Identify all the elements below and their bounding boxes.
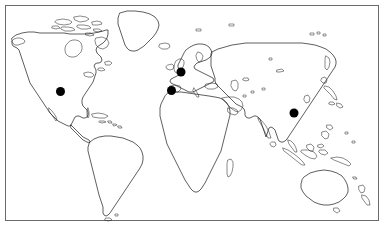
landmass-south-america xyxy=(88,136,143,221)
landmass-africa xyxy=(160,92,238,192)
landmass-japan xyxy=(321,77,343,108)
landmass-arabia xyxy=(222,97,243,112)
landmass-greenland xyxy=(118,11,159,51)
landmass-australia xyxy=(301,170,348,213)
landmass-iceland xyxy=(159,43,170,49)
small-islands xyxy=(115,24,355,216)
site-marker-southwest-europe[interactable] xyxy=(167,86,176,95)
landmass-north-america xyxy=(12,30,108,126)
site-markers-layer xyxy=(56,68,299,118)
world-map-figure xyxy=(0,0,385,229)
landmass-europe xyxy=(169,44,218,97)
site-marker-northwest-europe[interactable] xyxy=(177,68,186,77)
landmass-asia xyxy=(211,43,336,147)
landmass-new-zealand xyxy=(353,177,370,205)
site-marker-north-america[interactable] xyxy=(56,87,65,96)
landmass-central-america xyxy=(71,113,122,143)
site-marker-east-asia[interactable] xyxy=(290,109,299,118)
world-map-canvas xyxy=(0,0,385,229)
landmass-southeast-asia xyxy=(283,125,351,166)
landmass-canadian-arctic xyxy=(52,16,112,71)
